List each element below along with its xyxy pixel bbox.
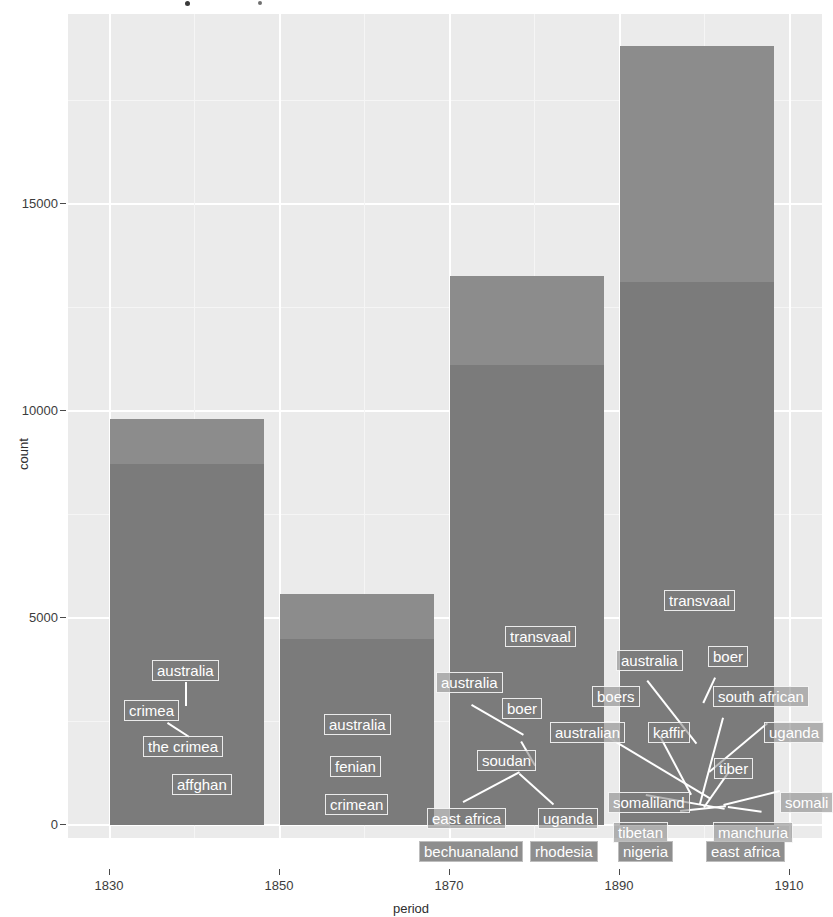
x-tick-label-1830: 1830 (69, 879, 149, 893)
bar-1890-segment-upper (620, 46, 774, 282)
gridline-major-x-1910 (789, 14, 791, 838)
word-label-crimea-1830[interactable]: crimea (124, 700, 179, 721)
word-label-fenian-1850[interactable]: fenian (330, 756, 381, 777)
word-label-australia-1850[interactable]: australia (324, 714, 391, 735)
bar-1870-segment-upper (450, 276, 604, 365)
word-label-transvaal-1870[interactable]: transvaal (505, 626, 576, 647)
y-tick-mark-15000 (60, 203, 66, 204)
word-label-uganda-1870[interactable]: uganda (538, 808, 598, 829)
leader-line-australia-1830 (185, 682, 187, 706)
word-label-australia-1830[interactable]: australia (152, 660, 219, 681)
y-tick-label-5000: 5000 (0, 611, 58, 624)
word-label-nigeria-1890[interactable]: nigeria (618, 841, 673, 862)
cropped-title-remnant (0, 0, 822, 12)
bar-1830-segment-lower (110, 464, 264, 825)
x-tick-mark-1830 (109, 869, 110, 875)
bar-1890-segment-lower (620, 282, 774, 825)
word-label-bechuanaland-1870[interactable]: bechuanaland (419, 841, 523, 862)
word-label-somali-1890[interactable]: somali (780, 792, 833, 813)
x-tick-mark-1890 (619, 869, 620, 875)
word-label-manchuria-1890[interactable]: manchuria (713, 822, 793, 843)
word-label-australia-1890[interactable]: australia (616, 650, 683, 671)
word-label-tibetan-1890[interactable]: tibetan (613, 822, 668, 843)
x-tick-label-1850: 1850 (239, 879, 319, 893)
x-tick-label-1910: 1910 (749, 879, 829, 893)
title-dot-left-icon (185, 1, 190, 6)
word-label-boers-1890[interactable]: boers (592, 686, 640, 707)
plot-panel: australia crimea the crimea affghan aust… (68, 14, 822, 838)
bar-1890[interactable] (620, 46, 774, 825)
word-label-the-crimea-1830[interactable]: the crimea (143, 736, 223, 757)
x-tick-mark-1850 (279, 869, 280, 875)
y-tick-mark-5000 (60, 617, 66, 618)
word-label-east-africa-1870[interactable]: east africa (427, 808, 506, 829)
bar-1830-segment-upper (110, 419, 264, 464)
word-label-australian-1890[interactable]: australian (550, 722, 625, 743)
word-label-soudan-1870[interactable]: soudan (477, 750, 536, 771)
x-axis-title: period (0, 901, 822, 916)
y-tick-mark-0 (60, 824, 66, 825)
word-label-uganda-1890[interactable]: uganda (764, 722, 824, 743)
word-label-somaliland-1890[interactable]: somaliland (608, 792, 690, 813)
y-tick-mark-10000 (60, 410, 66, 411)
bar-1850[interactable] (280, 594, 434, 825)
word-label-east-africa-1890[interactable]: east africa (706, 841, 785, 862)
y-tick-label-10000: 10000 (0, 404, 58, 417)
word-label-tiber-1890[interactable]: tiber (714, 758, 753, 779)
word-label-transvaal-1890[interactable]: transvaal (664, 590, 735, 611)
word-label-boer-1890[interactable]: boer (708, 646, 748, 667)
bar-1830[interactable] (110, 419, 264, 825)
y-tick-label-0: 0 (0, 818, 58, 831)
x-tick-label-1890: 1890 (579, 879, 659, 893)
title-dot-right-icon (258, 1, 262, 5)
x-tick-mark-1910 (789, 869, 790, 875)
word-label-affghan-1830[interactable]: affghan (172, 774, 232, 795)
y-tick-label-15000: 15000 (0, 197, 58, 210)
y-axis-title: count (16, 438, 31, 470)
x-tick-mark-1870 (449, 869, 450, 875)
x-tick-label-1870: 1870 (409, 879, 489, 893)
word-label-rhodesia-1890[interactable]: rhodesia (530, 841, 598, 862)
word-label-south-african-1890[interactable]: south african (713, 686, 809, 707)
word-label-crimean-1850[interactable]: crimean (325, 794, 388, 815)
bar-1850-segment-upper (280, 594, 434, 639)
word-label-kaffir-1890[interactable]: kaffir (648, 722, 690, 743)
word-label-australia-1870[interactable]: australia (436, 672, 503, 693)
word-label-boer-1870[interactable]: boer (502, 698, 542, 719)
